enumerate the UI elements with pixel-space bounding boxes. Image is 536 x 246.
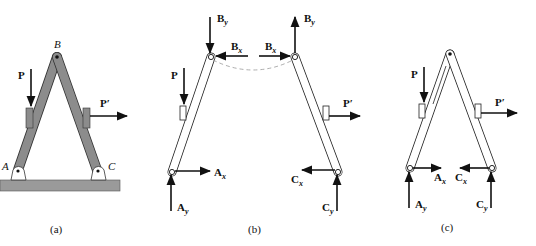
panel-a: P P′ B A C (a) bbox=[0, 38, 127, 236]
label-ay: Ay bbox=[415, 198, 427, 213]
label-p-prime: P′ bbox=[343, 97, 353, 109]
label-p: P bbox=[18, 69, 25, 81]
dashed-connection bbox=[213, 60, 293, 70]
label-bx-right: Bx bbox=[265, 40, 276, 55]
panel-c: P P′ Ax Cx Ay Cy (c) bbox=[407, 52, 517, 234]
caption-b: (b) bbox=[248, 223, 261, 236]
member-bc bbox=[450, 54, 492, 168]
label-by-right: By bbox=[304, 12, 315, 27]
label-cx: Cx bbox=[455, 171, 467, 186]
member-bc bbox=[295, 57, 338, 172]
load-block-right bbox=[83, 108, 90, 128]
label-by-left: By bbox=[217, 12, 228, 27]
label-bx-left: Bx bbox=[231, 40, 242, 55]
label-p: P bbox=[411, 68, 418, 80]
label-c: C bbox=[108, 160, 116, 172]
label-ay: Ay bbox=[177, 201, 189, 216]
label-p: P bbox=[171, 69, 178, 81]
member-bc bbox=[57, 57, 97, 170]
panel-b: By By Bx Bx P P′ Ax Ay Cx Cy (b) bbox=[169, 12, 360, 236]
load-block-left bbox=[26, 108, 33, 128]
pin-b bbox=[55, 55, 59, 59]
label-a: A bbox=[1, 160, 9, 172]
label-b: B bbox=[54, 38, 61, 50]
label-cy: Cy bbox=[322, 201, 334, 216]
label-ax: Ax bbox=[214, 166, 226, 181]
ground bbox=[0, 180, 120, 191]
label-ax: Ax bbox=[434, 171, 446, 186]
label-cy: Cy bbox=[476, 198, 488, 213]
label-cx: Cx bbox=[291, 173, 303, 188]
caption-c: (c) bbox=[441, 221, 454, 234]
member-ab bbox=[172, 57, 211, 172]
label-p-prime: P′ bbox=[100, 97, 110, 109]
frame-diagram: P P′ B A C (a) bbox=[0, 0, 536, 246]
label-p-prime: P′ bbox=[495, 96, 505, 108]
pin-b bbox=[448, 52, 452, 56]
caption-a: (a) bbox=[50, 223, 63, 236]
